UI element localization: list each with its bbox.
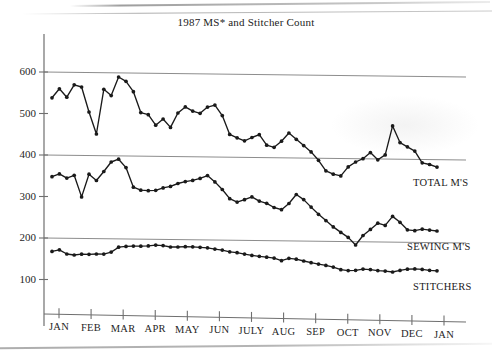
y-axis-tick-label: 300 <box>2 190 36 202</box>
series-lines-group <box>50 75 439 274</box>
chart-screenshot: 1987 MS* and Stitcher Count 600500400300… <box>0 0 492 359</box>
series-label-stitchers: STITCHERS <box>413 281 472 292</box>
gridlines-group <box>44 72 466 243</box>
series-sewing-ms <box>50 157 439 247</box>
series-total-ms <box>50 75 439 178</box>
y-axis-tick-label: 600 <box>2 65 36 77</box>
series-stitchers <box>50 243 439 274</box>
y-axis-tick-label: 400 <box>2 148 36 160</box>
y-axis-tick-label: 200 <box>2 231 36 243</box>
y-axis-tick-label: 500 <box>2 107 36 119</box>
axis-group <box>44 34 466 326</box>
series-label-total-ms: TOTAL M'S <box>413 177 468 188</box>
y-axis-tick-label: 100 <box>2 273 36 285</box>
x-axis-tick-label: JAN <box>420 329 468 340</box>
series-label-sewing-ms: SEWING M'S <box>407 241 471 252</box>
